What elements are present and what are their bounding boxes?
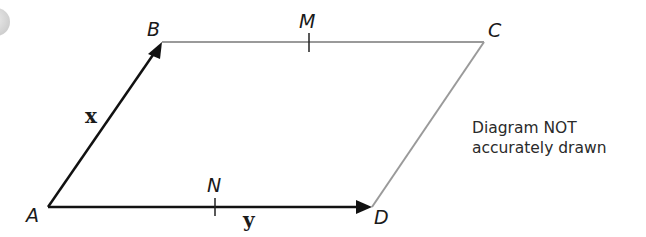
vertex-label-c: C <box>488 21 501 40</box>
vertex-label-b: B <box>147 20 160 39</box>
vector-label-x: x <box>85 106 97 126</box>
arrowhead-icon <box>356 200 372 214</box>
vertex-label-a: A <box>26 206 39 225</box>
side-cd <box>372 42 484 207</box>
note-line-2: accurately drawn <box>472 138 606 158</box>
midpoint-label-m: M <box>299 12 315 31</box>
midpoint-label-n: N <box>207 176 221 195</box>
vector-label-y: y <box>243 210 255 230</box>
arrowhead-icon <box>148 42 162 59</box>
diagram-note: Diagram NOT accurately drawn <box>472 118 606 158</box>
note-line-1: Diagram NOT <box>472 118 606 138</box>
corner-circle-icon <box>0 8 10 36</box>
vertex-label-d: D <box>374 208 389 227</box>
vector-x-line <box>48 52 155 207</box>
